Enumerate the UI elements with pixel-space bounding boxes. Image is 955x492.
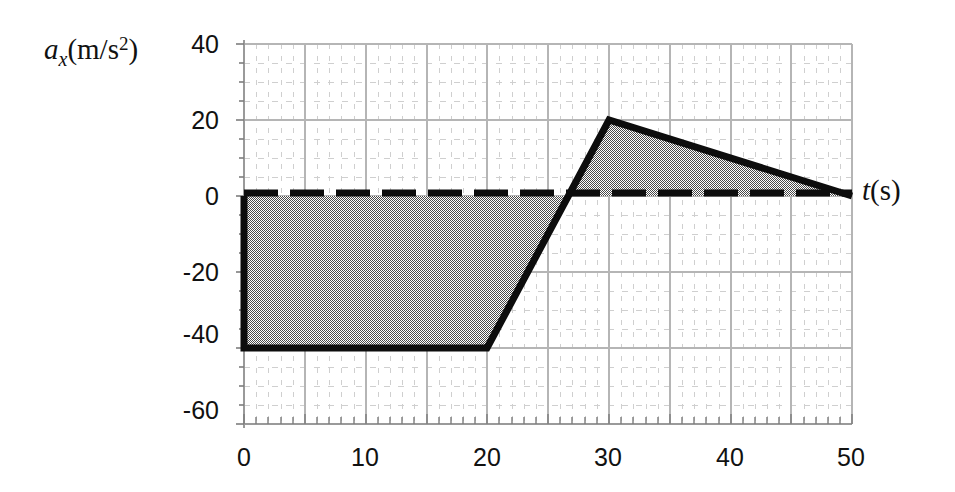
chart-figure-root: ax(m/s2) t(s) 40 20 0 -20 -40 -60 0 10 2…: [0, 0, 955, 492]
acceleration-time-graph: ax(m/s2) t(s) 40 20 0 -20 -40 -60 0 10 2…: [0, 0, 955, 492]
plot-area: [0, 0, 955, 492]
x-axis-tick-marks: [244, 414, 852, 424]
